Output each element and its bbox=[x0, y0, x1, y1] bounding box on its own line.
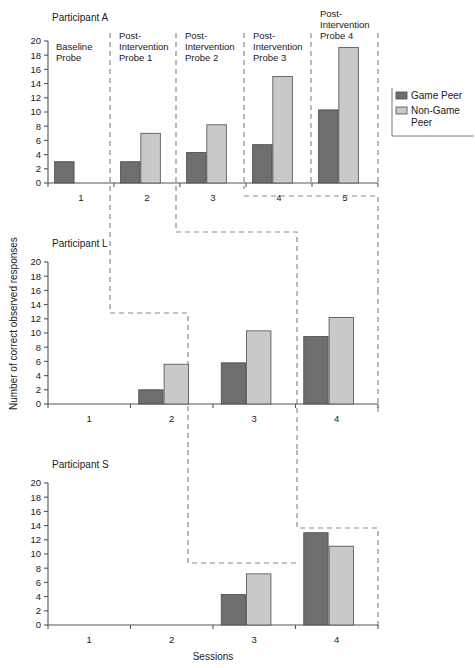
y-tick-label: 6 bbox=[36, 135, 41, 146]
bar-game-peer-session-3 bbox=[187, 152, 206, 183]
y-axis-title: Number of correct observed responses bbox=[8, 237, 19, 410]
y-tick-label: 2 bbox=[36, 605, 41, 616]
y-tick-label: 8 bbox=[36, 563, 41, 574]
x-tick-label: 4 bbox=[334, 413, 339, 424]
y-tick-label: 12 bbox=[30, 92, 41, 103]
y-tick-label: 2 bbox=[36, 163, 41, 174]
y-tick-label: 4 bbox=[36, 370, 41, 381]
phase-label-probe2-line1: Post- bbox=[185, 30, 207, 41]
y-tick-label: 4 bbox=[36, 149, 41, 160]
bar-non-game-peer-session-2 bbox=[141, 133, 160, 183]
y-tick-label: 14 bbox=[30, 299, 41, 310]
x-tick-label: 5 bbox=[342, 192, 347, 203]
x-axis-title: Sessions bbox=[193, 651, 234, 662]
panel-title-s: Participant S bbox=[52, 459, 109, 470]
bar-non-game-peer-session-5 bbox=[339, 47, 358, 183]
legend-label-non-game-peer-line1: Non-Game bbox=[411, 105, 460, 116]
phase-label-probe2-line3: Probe 2 bbox=[185, 52, 218, 63]
y-tick-label: 18 bbox=[30, 50, 41, 61]
y-tick-label: 2 bbox=[36, 384, 41, 395]
bar-game-peer-session-4 bbox=[253, 145, 272, 183]
phase-label-baseline-line1: Baseline bbox=[56, 41, 92, 52]
bar-game-peer-session-2 bbox=[139, 390, 163, 404]
y-tick-label: 4 bbox=[36, 591, 41, 602]
bar-game-peer-session-1 bbox=[55, 162, 74, 183]
y-tick-label: 18 bbox=[30, 271, 41, 282]
y-tick-label: 14 bbox=[30, 78, 41, 89]
bar-game-peer-session-5 bbox=[319, 110, 338, 183]
bar-non-game-peer-session-3 bbox=[247, 574, 271, 625]
x-tick-label: 4 bbox=[276, 192, 281, 203]
y-tick-label: 0 bbox=[36, 619, 41, 630]
y-tick-label: 12 bbox=[30, 313, 41, 324]
phase-label-probe3-line1: Post- bbox=[253, 30, 275, 41]
x-tick-label: 1 bbox=[87, 634, 92, 645]
x-tick-label: 2 bbox=[169, 634, 174, 645]
panel-title-l: Participant L bbox=[52, 238, 108, 249]
phase-label-probe1-line2: Intervention bbox=[119, 41, 169, 52]
y-tick-label: 20 bbox=[30, 256, 41, 267]
y-tick-label: 16 bbox=[30, 64, 41, 75]
bar-game-peer-session-4 bbox=[304, 337, 328, 404]
y-tick-label: 6 bbox=[36, 577, 41, 588]
phase-label-baseline-line2: Probe bbox=[56, 52, 81, 63]
x-tick-label: 3 bbox=[210, 192, 215, 203]
y-tick-label: 20 bbox=[30, 477, 41, 488]
y-tick-label: 0 bbox=[36, 177, 41, 188]
phase-label-probe3-line2: Intervention bbox=[253, 41, 303, 52]
multi-panel-bar-chart: Participant A Baseline Probe Post- Inter… bbox=[0, 0, 475, 668]
x-tick-label: 2 bbox=[169, 413, 174, 424]
y-tick-label: 10 bbox=[30, 106, 41, 117]
y-tick-label: 10 bbox=[30, 327, 41, 338]
bar-game-peer-session-3 bbox=[221, 594, 245, 625]
y-tick-label: 8 bbox=[36, 342, 41, 353]
y-tick-label: 10 bbox=[30, 548, 41, 559]
y-tick-label: 18 bbox=[30, 492, 41, 503]
bar-non-game-peer-session-3 bbox=[207, 125, 226, 183]
phase-label-probe2-line2: Intervention bbox=[185, 41, 235, 52]
phase-label-probe4-line3: Probe 4 bbox=[320, 30, 353, 41]
y-tick-label: 16 bbox=[30, 506, 41, 517]
phase-label-probe1-line3: Probe 1 bbox=[119, 52, 152, 63]
panel-title-a: Participant A bbox=[52, 12, 108, 23]
y-tick-label: 20 bbox=[30, 35, 41, 46]
x-tick-label: 1 bbox=[87, 413, 92, 424]
legend-swatch-game-peer bbox=[396, 92, 407, 99]
x-tick-label: 2 bbox=[144, 192, 149, 203]
x-tick-label: 3 bbox=[252, 634, 257, 645]
y-tick-label: 6 bbox=[36, 356, 41, 367]
x-tick-label: 4 bbox=[334, 634, 339, 645]
phase-label-probe4-line1: Post- bbox=[320, 8, 342, 19]
y-tick-label: 0 bbox=[36, 398, 41, 409]
bar-non-game-peer-session-4 bbox=[329, 317, 353, 404]
phase-label-probe3-line3: Probe 3 bbox=[253, 52, 286, 63]
phase-label-probe1-line1: Post- bbox=[119, 30, 141, 41]
phase-label-probe4-line2: Intervention bbox=[320, 19, 370, 30]
legend-label-game-peer: Game Peer bbox=[411, 90, 463, 101]
y-tick-label: 12 bbox=[30, 534, 41, 545]
y-tick-label: 8 bbox=[36, 121, 41, 132]
y-tick-label: 16 bbox=[30, 285, 41, 296]
legend-label-non-game-peer-line2: Peer bbox=[411, 117, 433, 128]
x-tick-label: 1 bbox=[78, 192, 83, 203]
bar-non-game-peer-session-3 bbox=[247, 331, 271, 404]
y-tick-label: 14 bbox=[30, 520, 41, 531]
legend-swatch-non-game-peer bbox=[396, 107, 407, 114]
bar-non-game-peer-session-4 bbox=[273, 77, 292, 184]
bar-game-peer-session-2 bbox=[121, 162, 140, 183]
x-tick-label: 3 bbox=[252, 413, 257, 424]
bar-game-peer-session-4 bbox=[304, 533, 328, 625]
bar-game-peer-session-3 bbox=[221, 363, 245, 404]
bar-non-game-peer-session-2 bbox=[164, 364, 188, 404]
bar-non-game-peer-session-4 bbox=[329, 546, 353, 625]
